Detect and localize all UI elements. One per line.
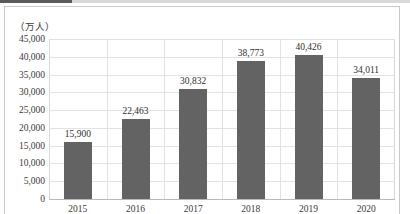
bar-value-label: 34,011 xyxy=(331,65,401,75)
y-axis-tick-label: 25,000 xyxy=(5,105,45,115)
y-axis-tick-label: 15,000 xyxy=(5,141,45,151)
y-axis-tick-label: 0 xyxy=(5,194,45,204)
y-axis-unit-label: （万人） xyxy=(15,19,55,33)
y-axis-tick-labels: 45,00040,00035,00030,00025,00020,00015,0… xyxy=(5,39,45,199)
page-top-strip xyxy=(0,0,72,3)
bar-value-label: 30,832 xyxy=(158,76,228,86)
gridline xyxy=(49,199,395,200)
bar-value-label: 15,900 xyxy=(43,129,113,139)
category-divider xyxy=(280,39,281,199)
page-top-strip-tail xyxy=(72,0,410,3)
y-axis-tick-label: 45,000 xyxy=(5,34,45,44)
y-axis-tick-label: 35,000 xyxy=(5,70,45,80)
y-axis-tick-label: 10,000 xyxy=(5,158,45,168)
bar[interactable] xyxy=(179,89,207,199)
bar[interactable] xyxy=(64,142,92,199)
y-axis-tick-label: 20,000 xyxy=(5,123,45,133)
bar[interactable] xyxy=(352,78,380,199)
chart-screenshot: （万人） 45,00040,00035,00030,00025,00020,00… xyxy=(0,0,410,214)
x-axis-tick-label: 2020 xyxy=(331,204,401,214)
plot-area xyxy=(49,39,395,199)
bar-value-label: 22,463 xyxy=(101,106,171,116)
category-divider xyxy=(164,39,165,199)
bar[interactable] xyxy=(295,55,323,199)
y-axis-tick-label: 30,000 xyxy=(5,87,45,97)
category-divider xyxy=(222,39,223,199)
y-axis-tick-label: 40,000 xyxy=(5,52,45,62)
bar-value-label: 40,426 xyxy=(274,42,344,52)
y-axis-tick-label: 5,000 xyxy=(5,176,45,186)
category-divider xyxy=(337,39,338,199)
category-divider xyxy=(107,39,108,199)
bar[interactable] xyxy=(237,61,265,199)
bar[interactable] xyxy=(122,119,150,199)
figure-frame: （万人） 45,00040,00035,00030,00025,00020,00… xyxy=(4,6,400,214)
